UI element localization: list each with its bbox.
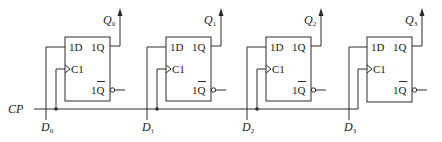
junction-dot bbox=[255, 107, 259, 111]
q-pin-label: 1Q bbox=[393, 41, 407, 53]
clk-pin-label: C1 bbox=[71, 63, 84, 75]
output-label: Q2 bbox=[304, 13, 317, 28]
clk-pin-label: C1 bbox=[272, 63, 285, 75]
q-pin-label: 1Q bbox=[292, 41, 306, 53]
arrow-up-icon bbox=[420, 8, 425, 16]
d-pin-label: 1D bbox=[371, 41, 385, 53]
clock-wire bbox=[56, 69, 65, 109]
junction-dot bbox=[54, 107, 58, 111]
flip-flop-0: 1D 1Q C1 1Q Q0 D0 bbox=[40, 8, 125, 135]
clock-wire bbox=[358, 69, 367, 109]
flip-flop-3: 1D 1Q C1 1Q Q3 D3 bbox=[343, 8, 427, 135]
input-label: D2 bbox=[241, 120, 255, 135]
junction-dot bbox=[155, 107, 159, 111]
flip-flop-1: 1D 1Q C1 1Q Q1 D1 bbox=[141, 8, 226, 135]
input-label: D3 bbox=[343, 120, 357, 135]
inversion-bubble-icon bbox=[311, 88, 315, 92]
arrow-up-icon bbox=[319, 8, 324, 16]
q-pin-label: 1Q bbox=[91, 41, 105, 53]
output-label: Q1 bbox=[204, 13, 217, 28]
inversion-bubble-icon bbox=[412, 88, 416, 92]
arrow-up-icon bbox=[118, 8, 123, 16]
input-label: D1 bbox=[141, 120, 155, 135]
qbar-pin-label: 1Q bbox=[393, 84, 407, 96]
d-pin-label: 1D bbox=[270, 41, 284, 53]
arrow-up-icon bbox=[219, 8, 224, 16]
flip-flop-2: 1D 1Q C1 1Q Q2 D2 bbox=[241, 8, 326, 135]
qbar-pin-label: 1Q bbox=[91, 84, 105, 96]
clock-wire bbox=[157, 69, 166, 109]
output-label: Q3 bbox=[405, 13, 418, 28]
q-pin-label: 1Q bbox=[192, 41, 206, 53]
inversion-bubble-icon bbox=[110, 88, 114, 92]
register-circuit-diagram: CP 1D 1Q C1 1Q Q0 D0 1 bbox=[0, 0, 442, 142]
clock-wire bbox=[257, 69, 266, 109]
output-label: Q0 bbox=[103, 13, 116, 28]
d-pin-label: 1D bbox=[69, 41, 83, 53]
inversion-bubble-icon bbox=[211, 88, 215, 92]
qbar-pin-label: 1Q bbox=[292, 84, 306, 96]
clock-line: CP bbox=[8, 102, 358, 116]
qbar-pin-label: 1Q bbox=[192, 84, 206, 96]
d-pin-label: 1D bbox=[170, 41, 184, 53]
input-label: D0 bbox=[40, 120, 54, 135]
clock-label: CP bbox=[8, 102, 24, 116]
clk-pin-label: C1 bbox=[172, 63, 185, 75]
clk-pin-label: C1 bbox=[373, 63, 386, 75]
